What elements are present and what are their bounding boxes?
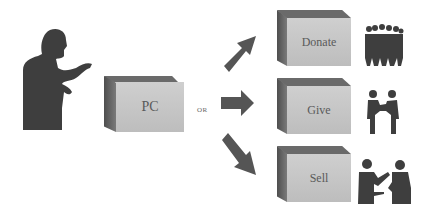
box-top xyxy=(277,78,351,86)
person-silhouette-icon xyxy=(20,28,110,133)
donate-box: Donate xyxy=(277,10,351,66)
box-side xyxy=(277,78,287,134)
give-box: Give xyxy=(277,78,351,134)
crowd-icon xyxy=(364,24,404,68)
pc-label: PC xyxy=(116,82,184,132)
box-top xyxy=(277,10,351,18)
or-label: OR xyxy=(197,106,208,114)
box-side xyxy=(277,146,287,202)
give-label: Give xyxy=(287,86,351,134)
sell-box: Sell xyxy=(277,146,351,202)
handing-over-icon xyxy=(366,89,400,135)
arrow-right-icon xyxy=(221,90,255,116)
arrow-up-right-icon xyxy=(222,34,258,74)
box-top xyxy=(277,146,351,154)
sell-label: Sell xyxy=(287,154,351,202)
donate-label: Donate xyxy=(287,18,351,66)
sale-exchange-icon xyxy=(356,158,412,204)
pc-box: PC xyxy=(104,76,184,132)
box-side xyxy=(104,76,116,132)
box-side xyxy=(277,10,287,66)
arrow-down-right-icon xyxy=(222,133,258,177)
